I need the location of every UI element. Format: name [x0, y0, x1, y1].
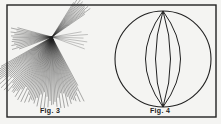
- fig4-sphere-diagram: [115, 11, 211, 107]
- meridian-right-outer: [163, 11, 181, 107]
- meridian-left-inner: [156, 11, 164, 107]
- fan-line: [52, 35, 88, 38]
- fan-line: [52, 37, 65, 108]
- sphere-outline: [115, 11, 211, 107]
- meridian-left-outer: [146, 11, 164, 107]
- fig3-caption: Fig. 3: [40, 107, 60, 114]
- fig3-fan-diagram: [0, 0, 90, 108]
- fan-line: [52, 37, 76, 101]
- fan-line: [52, 37, 71, 104]
- figure-plate: [0, 0, 221, 124]
- fig4-caption: Fig. 4: [150, 107, 170, 114]
- meridian-right-inner: [163, 11, 171, 107]
